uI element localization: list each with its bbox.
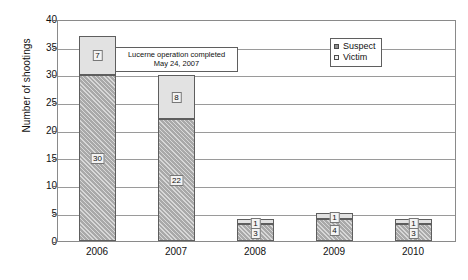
shootings-stacked-bar-chart: Number of shootings 40 35 30 25 20 15 10… [0,0,468,280]
bar-group-2009[interactable]: 4 1 [316,213,353,241]
legend-swatch-suspect-icon [334,44,339,49]
y-tick-label-15: 15 [11,154,57,164]
y-tick-label-35: 35 [11,43,57,53]
bar-group-2006[interactable]: 30 7 [79,36,116,241]
annotation-callout: Lucerne operation completed May 24, 2007 [115,47,238,72]
bar-value-label-victim-2008: 1 [250,218,260,229]
bar-segment-suspect-2006[interactable]: 30 [79,75,116,242]
bar-segment-victim-2007[interactable]: 8 [158,75,195,119]
legend-item-suspect[interactable]: Suspect [334,41,376,52]
y-tick-label-10: 10 [11,181,57,191]
y-tick-label-25: 25 [11,98,57,108]
y-tick-label-40: 40 [11,15,57,25]
bar-value-label-suspect-2007: 22 [169,175,184,186]
bar-value-label-victim-2010: 1 [408,218,418,229]
chart-legend: Suspect Victim [330,38,382,67]
x-tick-label-2009: 2009 [323,246,345,258]
bar-group-2007[interactable]: 22 8 [158,75,195,242]
bar-segment-suspect-2007[interactable]: 22 [158,119,195,241]
bar-value-label-suspect-2010: 3 [408,228,418,239]
bar-value-label-victim-2006: 7 [92,50,102,61]
bar-value-label-suspect-2006: 30 [90,153,105,164]
x-axis-ticks: 2006 2007 2008 2009 2010 [57,246,456,266]
x-tick-label-2007: 2007 [165,246,187,258]
legend-label-suspect: Suspect [343,41,376,52]
bar-value-label-suspect-2009: 4 [329,225,339,236]
bar-value-label-suspect-2008: 3 [250,228,260,239]
legend-label-victim: Victim [343,52,367,63]
bar-group-2010[interactable]: 3 1 [395,219,432,241]
bar-segment-victim-2009[interactable]: 1 [316,213,353,219]
y-tick-label-30: 30 [11,70,57,80]
y-tick-label-5: 5 [11,209,57,219]
bar-group-2008[interactable]: 3 1 [237,219,274,241]
x-tick-label-2010: 2010 [402,246,424,258]
x-tick-label-2006: 2006 [86,246,108,258]
bar-segment-victim-2006[interactable]: 7 [79,36,116,75]
y-tick-label-20: 20 [11,126,57,136]
y-axis-ticks: 40 35 30 25 20 15 10 5 0 [0,0,57,280]
legend-item-victim[interactable]: Victim [334,52,376,63]
bar-segment-victim-2008[interactable]: 1 [237,219,274,225]
bar-value-label-victim-2009: 1 [329,212,339,223]
y-tick-label-0: 0 [11,237,57,247]
annotation-line-2: May 24, 2007 [118,59,235,68]
annotation-line-1: Lucerne operation completed [118,50,235,59]
legend-swatch-victim-icon [334,55,339,60]
bar-segment-victim-2010[interactable]: 1 [395,219,432,225]
bar-value-label-victim-2007: 8 [171,92,181,103]
x-tick-label-2008: 2008 [244,246,266,258]
